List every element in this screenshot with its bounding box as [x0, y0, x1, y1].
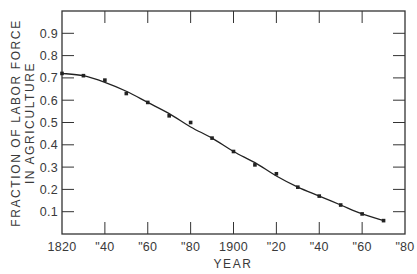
data-point — [189, 121, 193, 125]
y-axis-title-line-2: IN AGRICULTURE — [23, 62, 37, 184]
data-points — [60, 72, 385, 223]
data-point — [232, 150, 236, 154]
y-axis-tick-labels: 0.10.20.30.40.50.60.70.80.9 — [40, 27, 58, 219]
y-tick-label: 0.4 — [40, 138, 58, 152]
plot-border — [62, 11, 405, 234]
data-point — [382, 219, 386, 223]
y-tick-label: 0.7 — [40, 71, 58, 85]
plot-frame — [62, 11, 405, 234]
x-tick-label: "60 — [353, 240, 372, 254]
data-point — [82, 74, 86, 78]
x-axis-title: YEAR — [213, 257, 252, 271]
y-tick-label: 0.6 — [40, 94, 58, 108]
data-point — [210, 136, 214, 140]
y-tick-label: 0.1 — [40, 205, 58, 219]
x-tick-label: 1820 — [47, 240, 76, 254]
x-tick-label: "40 — [310, 240, 329, 254]
data-point — [60, 72, 64, 76]
x-axis-tick-labels: 1820"40"60"801900"20"40"60"80 — [47, 240, 414, 254]
data-point — [103, 78, 107, 82]
x-tick-label: "40 — [95, 240, 114, 254]
chart: 1820"40"60"801900"20"40"60"80 0.10.20.30… — [0, 0, 417, 274]
y-tick-label: 0.3 — [40, 161, 58, 175]
fitted-curve — [62, 73, 384, 220]
data-point — [317, 194, 321, 198]
y-axis-title-line-1: FRACTION OF LABOR FORCE — [9, 19, 23, 226]
y-axis-title: FRACTION OF LABOR FORCE IN AGRICULTURE — [9, 19, 37, 226]
y-tick-label: 0.8 — [40, 49, 58, 63]
x-axis-ticks — [105, 11, 362, 234]
data-point — [146, 101, 150, 105]
data-point — [360, 212, 364, 216]
y-tick-label: 0.2 — [40, 183, 58, 197]
x-tick-label: "80 — [181, 240, 200, 254]
y-axis-ticks — [62, 33, 405, 211]
x-tick-label: 1900 — [219, 240, 248, 254]
data-point — [339, 203, 343, 207]
y-tick-label: 0.5 — [40, 116, 58, 130]
x-tick-label: "20 — [267, 240, 286, 254]
y-tick-label: 0.9 — [40, 27, 58, 41]
data-point — [125, 92, 129, 96]
data-point — [167, 114, 171, 118]
x-tick-label: "80 — [395, 240, 414, 254]
data-point — [296, 185, 300, 189]
x-tick-label: "60 — [138, 240, 157, 254]
data-point — [275, 172, 279, 176]
data-point — [253, 163, 257, 167]
